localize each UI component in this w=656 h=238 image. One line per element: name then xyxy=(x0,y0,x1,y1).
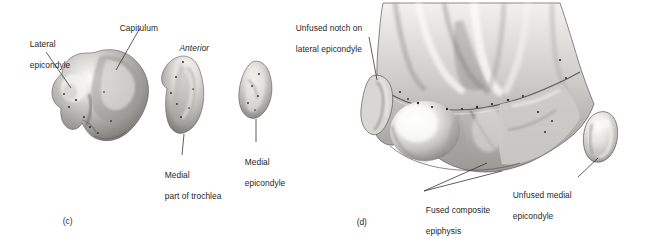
panel-label-d-text: (d) xyxy=(357,217,367,227)
label-medial-epicondyle-line2: epicondyle xyxy=(245,178,286,188)
label-capitulum-line1: Capitulum xyxy=(120,23,158,33)
label-unfused-medial-epicondyle: Unfused medial epicondyle xyxy=(508,180,572,222)
label-fused-composite-epiphysis-line1: Fused composite xyxy=(426,205,491,215)
label-unfused-notch-line2: lateral epicondyle xyxy=(296,44,362,54)
label-unfused-notch-line1: Unfused notch on xyxy=(296,23,362,33)
label-anterior-text: Anterior xyxy=(179,43,209,53)
label-lateral-epicondyle-line2: epicondyle xyxy=(30,60,71,70)
label-unfused-medial-epicondyle-line2: epicondyle xyxy=(513,211,554,221)
label-lateral-epicondyle: Lateral epicondyle xyxy=(25,29,70,71)
label-capitulum: Capitulum xyxy=(115,13,158,34)
label-lateral-epicondyle-line1: Lateral xyxy=(30,39,56,49)
panel-label-d: (d) xyxy=(352,207,367,227)
label-medial-part-of-trochlea-line1: Medial xyxy=(165,170,190,180)
label-unfused-notch-on-lateral-epicondyle: Unfused notch on lateral epicondyle xyxy=(291,13,362,55)
panel-label-c-text: (c) xyxy=(63,216,73,226)
label-medial-epicondyle: Medial epicondyle xyxy=(240,147,285,189)
label-fused-composite-epiphysis: Fused composite epiphysis xyxy=(421,195,490,237)
label-medial-epicondyle-line1: Medial xyxy=(245,157,270,167)
panel-label-c: (c) xyxy=(58,206,72,226)
label-fused-composite-epiphysis-line2: epiphysis xyxy=(426,226,461,236)
label-medial-part-of-trochlea: Medial part of trochlea xyxy=(160,160,221,202)
label-medial-part-of-trochlea-line2: part of trochlea xyxy=(165,191,222,201)
label-unfused-medial-epicondyle-line1: Unfused medial xyxy=(513,190,572,200)
label-anterior-orientation: Anterior xyxy=(175,33,209,54)
